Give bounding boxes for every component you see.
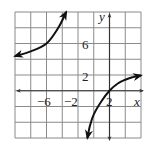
x-tick-label-2: 2 — [106, 95, 113, 108]
grid-lines — [15, 12, 141, 138]
x-tick-label-neg2: −2 — [64, 95, 78, 108]
axes — [17, 14, 143, 140]
curve-branch-left — [15, 12, 66, 56]
y-tick-label-6: 6 — [82, 38, 89, 51]
x-tick-label-neg6: −6 — [37, 95, 51, 108]
x-axis-label: x — [134, 95, 140, 108]
y-tick-label-2: 2 — [82, 70, 89, 83]
y-axis-label: y — [99, 10, 105, 23]
coordinate-plane — [0, 0, 151, 149]
